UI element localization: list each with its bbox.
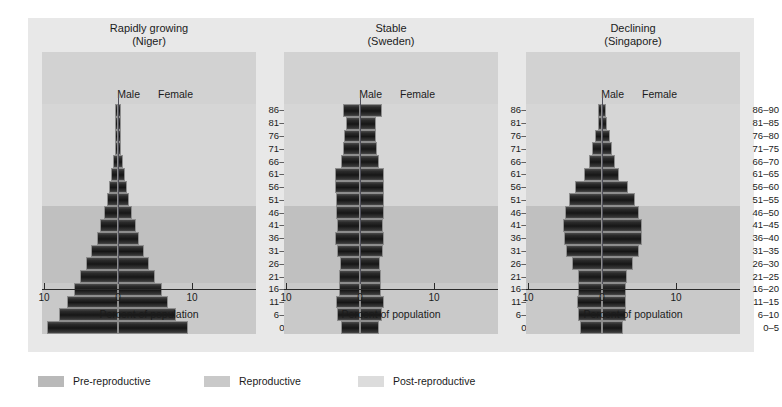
bar-male (341, 155, 360, 168)
pyramid-row (526, 130, 740, 143)
bar-female (360, 232, 384, 245)
x-tick-labels: 10010 (284, 292, 498, 304)
pyramid-row (526, 117, 740, 130)
bar-female (602, 321, 623, 334)
axis-tick (676, 283, 677, 290)
bar-male (566, 245, 602, 258)
age-group-label: 56–60 (745, 182, 779, 192)
pyramid-row (42, 257, 256, 270)
tick-label: 0 (115, 292, 121, 303)
bar-female (602, 206, 639, 219)
axis-tick (192, 283, 193, 290)
sex-labels: MaleFemale (42, 88, 256, 100)
pyramid-row (526, 104, 740, 117)
pyramid-row (526, 206, 740, 219)
bar-female (602, 130, 610, 143)
pyramid-row (284, 130, 498, 143)
bar-female (118, 181, 127, 194)
age-group-label: 66–70 (745, 157, 779, 167)
male-label: Male (326, 88, 391, 100)
age-group-label: 61–65 (745, 169, 779, 179)
bar-male (104, 206, 118, 219)
bar-male (86, 257, 118, 270)
bar-male (335, 181, 360, 194)
plot-area: MaleFemale10010Percent of population (284, 52, 498, 320)
pyramid-row (526, 168, 740, 181)
plot-area: MaleFemale10010Percent of population (526, 52, 740, 320)
bar-male (91, 245, 118, 258)
center-axis-line (602, 98, 603, 284)
pyramid-row (42, 104, 256, 117)
panel-title: Stable (Sweden) (270, 22, 512, 48)
bar-female (602, 232, 642, 245)
bar-male (107, 193, 118, 206)
pyramid-row (284, 168, 498, 181)
pyramid-row (526, 155, 740, 168)
bar-female (360, 321, 379, 334)
pyramid-row (526, 232, 740, 245)
tick-label: 10 (280, 292, 291, 303)
female-label: Female (633, 88, 698, 100)
pyramid-row (284, 155, 498, 168)
pyramid-row (42, 155, 256, 168)
bar-male (341, 321, 360, 334)
bar-male (572, 257, 602, 270)
bar-female (118, 219, 136, 232)
pyramid-row (42, 245, 256, 258)
bar-male (343, 104, 360, 117)
bar-female (602, 193, 635, 206)
bar-female (602, 168, 619, 181)
tick-label: 0 (599, 292, 605, 303)
bar-male (578, 270, 602, 283)
age-group-label: 21–25 (745, 272, 779, 282)
tick-label: 10 (186, 292, 197, 303)
axis-rule (526, 289, 740, 290)
pyramid-row (284, 181, 498, 194)
bar-male (339, 270, 360, 283)
x-axis (526, 283, 740, 290)
pyramid-row (284, 142, 498, 155)
age-group-label: 6–10 (745, 310, 779, 320)
bar-male (589, 155, 602, 168)
bar-female (360, 155, 379, 168)
pyramid-row (284, 193, 498, 206)
age-group-label: 46–50 (745, 208, 779, 218)
age-group-label: 36–40 (745, 233, 779, 243)
pyramid-row (526, 245, 740, 258)
bar-female (360, 270, 381, 283)
female-label: Female (149, 88, 214, 100)
age-group-label: 26–30 (745, 259, 779, 269)
bar-male (111, 168, 118, 181)
age-group-label: 11–15 (745, 297, 779, 307)
population-pyramid-figure: Rapidly growing (Niger)MaleFemale10010Pe… (28, 18, 754, 352)
x-tick-labels: 10010 (526, 292, 740, 304)
age-group-label: 31–35 (745, 246, 779, 256)
pyramid-row (526, 270, 740, 283)
age-group-label: 76–80 (745, 131, 779, 141)
bar-female (118, 257, 149, 270)
pyramid-row (42, 181, 256, 194)
pyramid-row (526, 257, 740, 270)
bar-male (343, 142, 360, 155)
bar-female (118, 232, 139, 245)
bar-female (360, 142, 377, 155)
bar-female (602, 142, 612, 155)
pyramid-row (42, 219, 256, 232)
bar-male (337, 219, 360, 232)
bar-female (360, 104, 382, 117)
pyramid-panel-niger: Rapidly growing (Niger)MaleFemale10010Pe… (28, 18, 270, 352)
pyramid-row (284, 206, 498, 219)
bar-male (100, 219, 118, 232)
pyramid-row (526, 181, 740, 194)
bar-male (335, 232, 360, 245)
bar-female (118, 245, 144, 258)
bar-male (563, 219, 602, 232)
x-tick-labels: 10010 (42, 292, 256, 304)
legend-swatch (204, 376, 230, 387)
bar-female (360, 168, 384, 181)
pyramid-panel-sweden: Stable (Sweden)MaleFemale10010Percent of… (270, 18, 512, 352)
bar-male (580, 321, 602, 334)
pyramid-row (42, 270, 256, 283)
axis-tick (44, 283, 45, 290)
bar-female (360, 130, 376, 143)
